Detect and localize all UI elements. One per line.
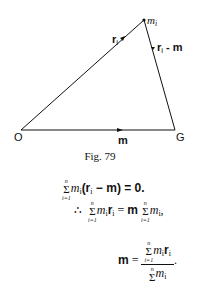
triangle-figure [0, 0, 200, 150]
equation-1: nΣi=1mi(ri − m) = 0. [62, 178, 145, 201]
equation-3: m = nΣi=1miri nΣmi . [118, 240, 177, 283]
vector-ri-line [21, 20, 144, 130]
mass-point [142, 18, 145, 21]
arrow-icon [117, 128, 123, 132]
point-label-G: G [176, 131, 185, 143]
vector-label-ri: ri [112, 33, 118, 47]
vector-label-m: m [118, 134, 128, 146]
vector-ri-minus-m-line [144, 20, 175, 130]
point-label-mi: mi [147, 14, 157, 28]
vector-label-ri-minus-m: ri - m [157, 41, 183, 55]
point-label-O: O [14, 131, 23, 143]
figure-caption: Fig. 79 [0, 150, 200, 162]
equation-2: ∴ nΣi=1miri = m nΣi=1mi, [74, 200, 164, 223]
